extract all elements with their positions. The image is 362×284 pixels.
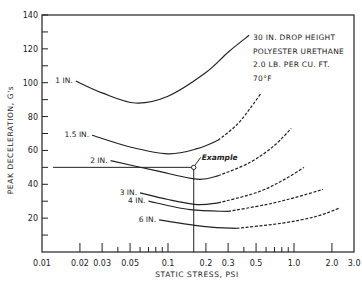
curve-3-in-solid (140, 193, 218, 205)
example-label: Example (202, 153, 238, 162)
x-tick-label: 0.01 (33, 259, 51, 268)
notes-block: 30 IN. DROP HEIGHTPOLYESTER URETHANE2.0 … (253, 33, 344, 83)
x-tick-label: 0.3 (222, 259, 235, 268)
y-tick-label: 20 (28, 214, 38, 223)
curve-3-in-dashed (218, 167, 304, 203)
cushion-curve-chart: 20406080100120140 0.010.020.030.050.10.2… (0, 0, 362, 284)
y-axis-ticks: 20406080100120140 (23, 11, 48, 235)
x-tick-label: 3.0 (348, 259, 361, 268)
note-line: 30 IN. DROP HEIGHT (253, 33, 335, 42)
curve-label: 1.5 IN. (65, 130, 90, 139)
curve-label: 1 IN. (55, 76, 72, 85)
x-tick-label: 0.03 (93, 259, 111, 268)
curve-label: 2 IN. (90, 156, 107, 165)
curve-4-in-dashed (228, 189, 323, 211)
x-tick-label: 0.5 (250, 259, 263, 268)
x-tick-label: 0.05 (121, 259, 139, 268)
curve-1-5.in-solid (92, 135, 218, 154)
note-line: POLYESTER URETHANE (253, 47, 344, 56)
y-tick-label: 100 (23, 79, 38, 88)
curve-6-in-solid (159, 220, 237, 229)
curve-2-in-solid (111, 161, 219, 180)
example-point (192, 165, 196, 169)
curve-1-in-solid (76, 35, 249, 103)
y-tick-label: 60 (28, 146, 38, 155)
x-tick-label: 1.0 (288, 259, 301, 268)
y-tick-label: 40 (28, 180, 38, 189)
curve-1-5.in-dashed (218, 93, 261, 140)
y-tick-label: 80 (28, 113, 38, 122)
curve-label: 6 IN. (139, 215, 156, 224)
x-axis-title: STATIC STRESS, PSI (155, 270, 239, 279)
curve-6-in-dashed (237, 208, 340, 228)
x-tick-label: 0.1 (162, 259, 175, 268)
x-tick-label: 0.2 (200, 259, 213, 268)
example-arrow (195, 157, 201, 165)
x-axis-ticks: 0.010.020.030.050.10.20.30.51.02.03.0 (33, 243, 360, 268)
y-tick-label: 140 (23, 11, 38, 20)
note-line: 70°F (253, 74, 272, 83)
note-line: 2.0 LB. PER CU. FT. (253, 60, 330, 69)
x-tick-label: 2.0 (326, 259, 339, 268)
x-tick-label: 0.02 (71, 259, 89, 268)
y-tick-label: 120 (23, 45, 38, 54)
curve-2-in-dashed (218, 128, 291, 175)
y-axis-title: PEAK DECELERATION, G's (6, 86, 15, 195)
curve-label: 4 IN. (128, 196, 145, 205)
